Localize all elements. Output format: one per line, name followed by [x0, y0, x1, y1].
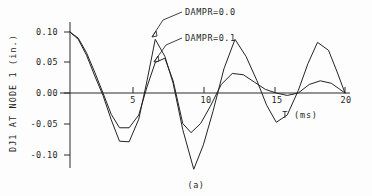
annotation-leader-1 — [166, 38, 182, 45]
annotation-label-1: DAMPR=0.1 — [185, 33, 236, 43]
x-tick-label-0: 5 — [130, 95, 136, 105]
x-tick-label-1: 10 — [200, 95, 211, 105]
chart-canvas: 0.10 0.05 0.00 -0.05 -0.10 5 10 15 20 DA… — [0, 0, 372, 196]
y-tick-labels: 0.10 0.05 0.00 -0.05 -0.10 — [30, 27, 58, 160]
figure-caption: (a) — [187, 180, 204, 190]
y-tick-label-4: -0.10 — [30, 150, 58, 160]
y-tick-label-0: 0.10 — [36, 27, 58, 37]
y-axis-group — [64, 22, 70, 168]
x-tick-label-3: 20 — [340, 95, 351, 105]
y-tick-label-2: 0.00 — [36, 88, 58, 98]
y-tick-label-1: 0.05 — [36, 57, 58, 67]
x-axis-title: T (ms) — [282, 110, 318, 120]
annotation-dampr-0-1: DAMPR=0.1 — [154, 33, 236, 62]
x-tick-labels: 5 10 15 20 — [130, 95, 351, 105]
annotation-leader-0 — [163, 12, 182, 20]
figure-panel: DJ1 AT NODE 1 (in.) 0.10 0.05 0.00 -0.05… — [0, 0, 372, 196]
x-axis-group — [60, 87, 350, 93]
annotation-arrowhead-0 — [152, 31, 157, 37]
annotation-label-0: DAMPR=0.0 — [185, 7, 236, 17]
annotation-arrowhead-1 — [154, 56, 159, 62]
y-tick-label-3: -0.05 — [30, 119, 58, 129]
x-tick-label-2: 15 — [271, 95, 282, 105]
